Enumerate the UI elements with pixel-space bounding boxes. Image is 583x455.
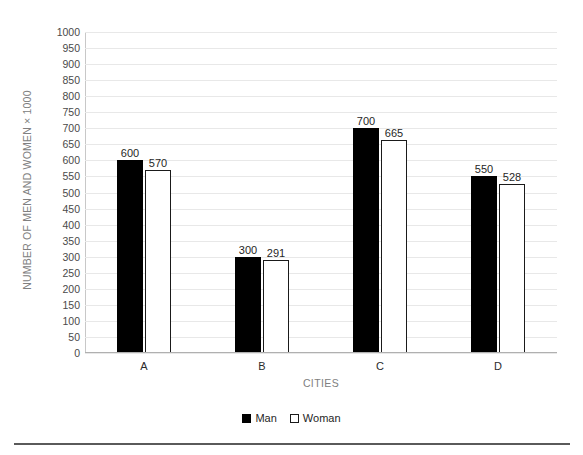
bar-group: 700665 [321,32,439,353]
bar-value-label: 665 [385,128,403,139]
filled-square-icon [242,414,251,423]
bar-value-label: 300 [239,245,257,256]
legend-label: Man [255,412,276,424]
y-axis-tick-label: 1000 [30,27,80,38]
bar-value-label: 570 [149,158,167,169]
bar-group: 550528 [439,32,557,353]
page-divider-rule [14,443,570,445]
plot-area: 600570300291700665550528 [85,32,557,353]
y-axis-tick-label: 750 [30,107,80,118]
bar-pair: 300291 [235,257,289,353]
y-axis-tick-label: 300 [30,251,80,262]
y-axis-tick-label: 350 [30,235,80,246]
x-axis-category-c: C [321,358,439,374]
y-axis-tick-label: 200 [30,284,80,295]
y-axis-tick-labels: 0501001502002503003504004505005506006507… [30,32,80,353]
bar-d-woman[interactable]: 528 [499,184,525,353]
gridline [85,353,557,354]
bar-groups: 600570300291700665550528 [85,32,557,353]
chart-legend: ManWoman [0,412,583,424]
x-axis-line [85,352,557,353]
y-axis-tick-label: 950 [30,43,80,54]
x-axis-category-a: A [85,358,203,374]
y-axis-tick-label: 400 [30,219,80,230]
x-axis-category-d: D [439,358,557,374]
bar-group: 300291 [203,32,321,353]
x-axis-category-labels: ABCD [85,358,557,374]
y-axis-tick-label: 550 [30,171,80,182]
x-axis-title: CITIES [85,377,557,389]
bar-chart: NUMBER OF MEN AND WOMEN × 1000 050100150… [0,0,583,455]
y-axis-tick-label: 600 [30,155,80,166]
bar-pair: 600570 [117,160,171,353]
bar-value-label: 528 [503,172,521,183]
bar-c-woman[interactable]: 665 [381,140,407,353]
bar-pair: 550528 [471,176,525,353]
bar-b-woman[interactable]: 291 [263,260,289,353]
outlined-square-icon [290,414,299,423]
bar-a-man[interactable]: 600 [117,160,143,353]
bar-a-woman[interactable]: 570 [145,170,171,353]
y-axis-tick-label: 250 [30,268,80,279]
x-axis-category-b: B [203,358,321,374]
y-axis-tick-label: 50 [30,332,80,343]
y-axis-tick-label: 100 [30,316,80,327]
legend-label: Woman [303,412,341,424]
y-axis-tick-label: 800 [30,91,80,102]
bar-c-man[interactable]: 700 [353,128,379,353]
bar-d-man[interactable]: 550 [471,176,497,353]
bar-value-label: 550 [475,164,493,175]
bar-pair: 700665 [353,128,407,353]
legend-item-woman[interactable]: Woman [290,412,341,424]
y-axis-tick-label: 900 [30,59,80,70]
bar-b-man[interactable]: 300 [235,257,261,353]
y-axis-tick-label: 850 [30,75,80,86]
legend-item-man[interactable]: Man [242,412,276,424]
bar-group: 600570 [85,32,203,353]
y-axis-tick-label: 700 [30,123,80,134]
y-axis-tick-label: 150 [30,300,80,311]
bar-value-label: 600 [121,148,139,159]
y-axis-tick-label: 650 [30,139,80,150]
y-axis-tick-label: 500 [30,187,80,198]
y-axis-tick-label: 0 [30,348,80,359]
y-axis-tick-label: 450 [30,203,80,214]
bar-value-label: 291 [267,248,285,259]
bar-value-label: 700 [357,116,375,127]
